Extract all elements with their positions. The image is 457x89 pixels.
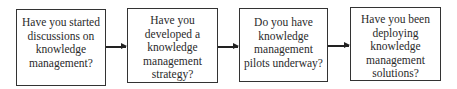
arrow-2-to-3	[218, 46, 238, 48]
step-4-label: Have you been deploying knowledge manage…	[361, 8, 430, 80]
step-4-box: Have you been deploying knowledge manage…	[350, 7, 441, 81]
step-3-label: Do you have knowledge management pilots …	[244, 9, 323, 81]
step-1-box: Have you started discussions on knowledg…	[16, 9, 106, 86]
step-1-label: Have you started discussions on knowledg…	[22, 10, 100, 85]
arrow-1-to-2	[106, 46, 126, 48]
step-2-box: Have you developed a knowledge managemen…	[127, 8, 218, 83]
step-2-label: Have you developed a knowledge managemen…	[143, 9, 202, 82]
step-3-box: Do you have knowledge management pilots …	[239, 8, 328, 82]
arrow-3-to-4	[328, 45, 349, 47]
